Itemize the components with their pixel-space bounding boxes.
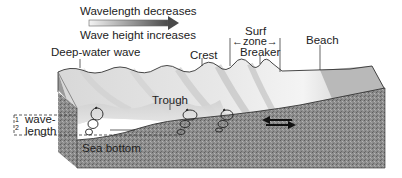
deep-water-wave-label: Deep-water wave xyxy=(51,47,140,59)
sea-bottom-label: Sea bottom xyxy=(82,143,141,155)
legend-wave-height-label: Wave height increases xyxy=(80,30,196,42)
beach-label: Beach xyxy=(306,35,339,47)
breaker-label: Breaker xyxy=(240,47,280,59)
wave-diagram xyxy=(0,0,402,178)
half-fraction-label: 1 2 xyxy=(15,116,19,132)
trough-label: Trough xyxy=(152,95,188,107)
half-denominator: 2 xyxy=(15,124,19,132)
gradient-arrow-icon xyxy=(89,16,179,30)
crest-label: Crest xyxy=(190,50,217,62)
length-label: length xyxy=(25,126,56,138)
wave-label: wave- xyxy=(25,114,56,126)
legend-wavelength-label: Wavelength decreases xyxy=(80,6,197,18)
half-numerator: 1 xyxy=(15,116,19,124)
